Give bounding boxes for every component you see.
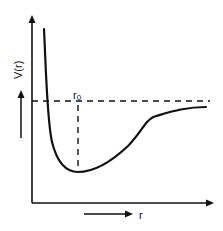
- x-direction-arrow-icon: [84, 211, 133, 218]
- y-axis-label: V(r): [12, 61, 24, 79]
- y-axis: [29, 15, 36, 203]
- x-axis: [32, 200, 214, 207]
- r0-label: r0: [73, 89, 82, 102]
- x-axis-label: r: [139, 209, 143, 221]
- potential-energy-diagram: V(r) r r0: [0, 0, 223, 231]
- r0-label-subscript: 0: [77, 93, 82, 102]
- y-direction-arrow-icon: [18, 90, 25, 138]
